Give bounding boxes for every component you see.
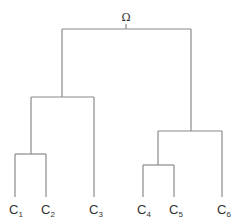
leaf-label-c3: C3 — [89, 203, 103, 219]
dendrogram-lines — [0, 0, 243, 224]
leaf-label-c2: C2 — [41, 203, 55, 219]
leaf-label-c5: C5 — [169, 203, 183, 219]
root-label: Ω — [121, 12, 130, 23]
leaf-label-c1: C1 — [9, 203, 23, 219]
leaf-label-c4: C4 — [137, 203, 151, 219]
leaf-label-c6: C6 — [217, 203, 231, 219]
dendrogram: Ω C1 C2 C3 C4 C5 C6 — [0, 0, 243, 224]
